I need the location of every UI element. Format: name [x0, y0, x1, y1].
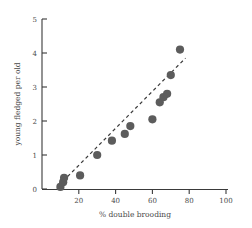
- data-point: [163, 90, 171, 98]
- chart-canvas: 0 1 2 3 4 5 20 40 60 80 100 % double: [0, 0, 252, 228]
- data-point: [60, 174, 68, 182]
- x-axis-title: % double brooding: [99, 210, 171, 219]
- y-axis-ticks: [42, 19, 47, 189]
- y-tick-label-2: 2: [33, 118, 37, 126]
- x-tick-label-100: 100: [219, 197, 232, 205]
- data-point: [167, 71, 175, 79]
- y-tick-label-3: 3: [33, 84, 37, 92]
- axes-group: [42, 19, 228, 190]
- y-axis-tick-labels: 0 1 2 3 4 5: [33, 16, 38, 194]
- x-tick-label-60: 60: [148, 197, 157, 205]
- data-point: [108, 137, 116, 145]
- y-tick-label-1: 1: [33, 152, 37, 160]
- y-tick-label-4: 4: [33, 50, 38, 58]
- data-point: [126, 122, 134, 130]
- y-axis-title: young fledged per old: [13, 62, 22, 146]
- x-axis-tick-labels: 20 40 60 80 100: [74, 197, 232, 205]
- x-tick-label-80: 80: [185, 197, 194, 205]
- data-point: [121, 130, 129, 138]
- y-tick-label-5: 5: [33, 16, 37, 24]
- data-points-group: [56, 46, 184, 192]
- trend-line: [59, 58, 186, 186]
- y-tick-label-0: 0: [33, 186, 37, 194]
- x-tick-label-20: 20: [74, 197, 83, 205]
- data-point: [93, 151, 101, 159]
- data-point: [176, 46, 184, 54]
- x-tick-label-40: 40: [111, 197, 120, 205]
- data-point: [148, 115, 156, 123]
- scatter-plot-figure: 0 1 2 3 4 5 20 40 60 80 100 % double: [0, 0, 252, 228]
- data-point: [76, 171, 84, 179]
